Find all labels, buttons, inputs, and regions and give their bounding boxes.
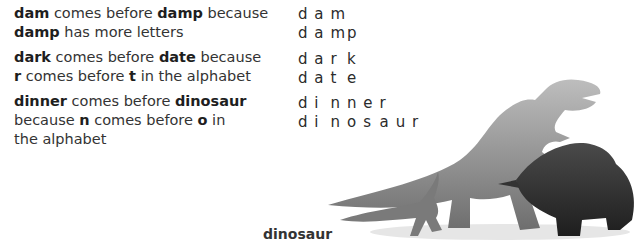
- letter: a: [314, 5, 330, 24]
- expl-line: r comes before t in the alphabet: [14, 67, 261, 86]
- expl-line: the alphabet: [14, 130, 246, 149]
- letter: d: [298, 5, 314, 24]
- text-segment: because: [203, 5, 268, 21]
- keyword: dinner: [14, 93, 67, 109]
- keyword: dark: [14, 49, 51, 65]
- text-segment: in the alphabet: [136, 68, 251, 84]
- keyword: dam: [14, 5, 49, 21]
- letter: d: [298, 113, 314, 132]
- letter-grid-dam-damp: dam damp: [298, 5, 363, 43]
- illustration-caption: dinosaur: [263, 226, 332, 242]
- keyword: dinosaur: [175, 93, 247, 109]
- letter: d: [298, 24, 314, 43]
- letter: m: [331, 5, 347, 24]
- text-segment: comes before: [90, 112, 198, 128]
- letter: a: [314, 24, 330, 43]
- keyword: n: [79, 112, 89, 128]
- text-segment: because: [196, 49, 261, 65]
- text-segment: in: [208, 112, 226, 128]
- keyword: damp: [157, 5, 203, 21]
- keyword: t: [129, 68, 136, 84]
- spelled-word: damp: [298, 24, 363, 43]
- letter: d: [298, 50, 314, 69]
- expl-line: dark comes before date because: [14, 48, 261, 67]
- text-segment: comes before: [21, 68, 129, 84]
- text-segment: comes before: [51, 49, 159, 65]
- letter: d: [298, 69, 314, 88]
- expl-line: damp has more letters: [14, 23, 268, 42]
- text-segment: because: [14, 112, 79, 128]
- spelled-word: dam: [298, 5, 363, 24]
- explanation-dinner-dinosaur: dinner comes before dinosaur because n c…: [14, 92, 246, 149]
- text-segment: has more letters: [60, 24, 184, 40]
- text-segment: comes before: [49, 5, 157, 21]
- letter: d: [298, 94, 314, 113]
- letter: p: [347, 24, 363, 43]
- expl-line: dam comes before damp because: [14, 4, 268, 23]
- keyword: damp: [14, 24, 60, 40]
- text-segment: comes before: [67, 93, 175, 109]
- keyword: date: [159, 49, 196, 65]
- expl-line: dinner comes before dinosaur: [14, 92, 246, 111]
- dinosaur-illustration: [320, 60, 642, 252]
- explanation-dark-date: dark comes before date because r comes b…: [14, 48, 261, 86]
- explanation-dam-damp: dam comes before damp because damp has m…: [14, 4, 268, 42]
- letter: m: [331, 24, 347, 43]
- text-segment: the alphabet: [14, 131, 106, 147]
- keyword: o: [198, 112, 208, 128]
- expl-line: because n comes before o in: [14, 111, 246, 130]
